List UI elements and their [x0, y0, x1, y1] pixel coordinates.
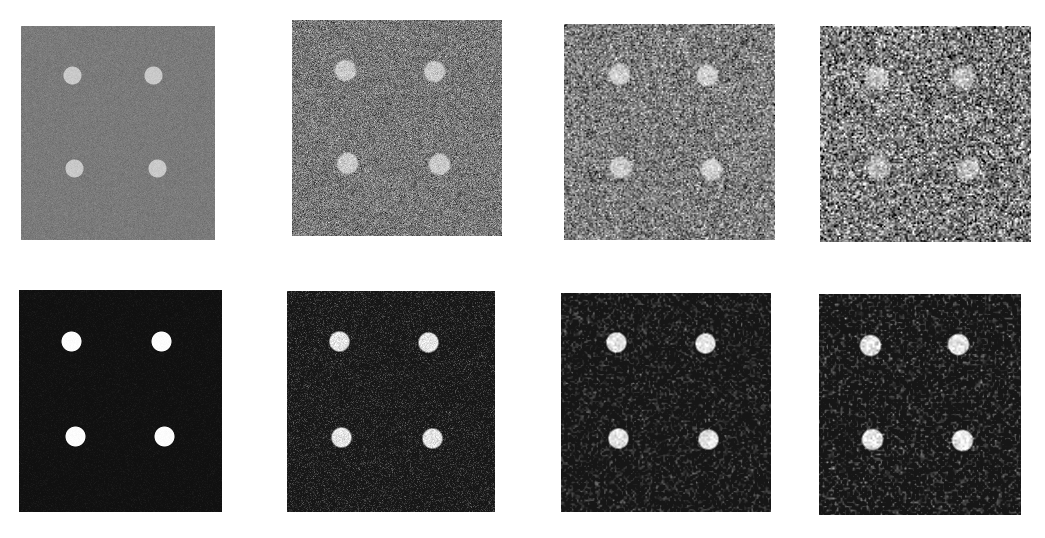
noise-image [561, 293, 771, 512]
noise-image [287, 291, 495, 512]
image-panel-top-3 [564, 24, 775, 240]
image-panel-top-4 [820, 26, 1031, 242]
noise-image [564, 24, 775, 240]
noise-image [820, 26, 1031, 242]
image-panel-bottom-2 [287, 291, 495, 512]
image-panel-top-2 [292, 20, 502, 236]
noise-image [292, 20, 502, 236]
noise-image [819, 294, 1021, 515]
figure-grid [0, 0, 1045, 538]
image-panel-bottom-1 [19, 290, 222, 512]
image-panel-bottom-4 [819, 294, 1021, 515]
image-panel-bottom-3 [561, 293, 771, 512]
noise-image [19, 290, 222, 512]
noise-image [21, 26, 215, 240]
image-panel-top-1 [21, 26, 215, 240]
